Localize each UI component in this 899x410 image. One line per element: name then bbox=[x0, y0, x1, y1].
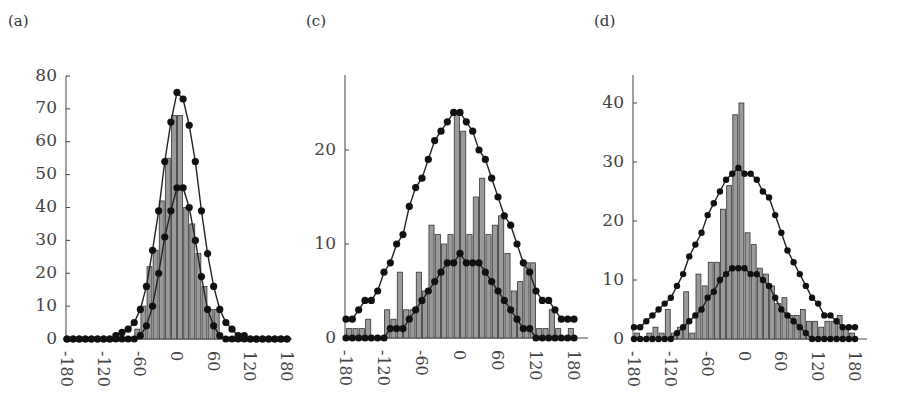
curve-marker bbox=[778, 230, 784, 236]
y-tick-label: 30 bbox=[602, 151, 624, 171]
curve-marker bbox=[797, 324, 803, 330]
histogram-bar bbox=[435, 235, 440, 338]
curve-line bbox=[346, 112, 574, 319]
histogram-bar bbox=[171, 115, 176, 339]
curve-marker bbox=[833, 336, 839, 342]
curve-marker bbox=[368, 297, 375, 304]
curve-marker bbox=[143, 322, 150, 329]
x-tick-label: -120 bbox=[94, 351, 113, 387]
curve-marker bbox=[637, 336, 643, 342]
curve-marker bbox=[406, 203, 413, 210]
histogram-bar bbox=[153, 250, 158, 339]
curve-marker bbox=[482, 269, 489, 276]
x-tick-label: -60 bbox=[412, 350, 431, 376]
curve-marker bbox=[815, 300, 821, 306]
histogram-bar bbox=[702, 286, 707, 339]
curve-marker bbox=[204, 250, 211, 257]
x-tick-label: 60 bbox=[771, 351, 790, 371]
histogram-bar bbox=[461, 131, 466, 338]
histogram-bar bbox=[782, 298, 787, 339]
curve-marker bbox=[766, 283, 772, 289]
histogram-bar bbox=[486, 235, 491, 338]
curve-marker bbox=[210, 322, 217, 329]
curve-marker bbox=[118, 329, 125, 336]
curve-marker bbox=[784, 247, 790, 253]
histogram-bar bbox=[727, 186, 732, 339]
curve-marker bbox=[821, 336, 827, 342]
histogram-bar bbox=[454, 112, 459, 338]
curve-marker bbox=[131, 319, 138, 326]
curve-marker bbox=[723, 271, 729, 277]
histogram-bar bbox=[696, 274, 701, 339]
curve-marker bbox=[809, 295, 815, 301]
x-tick-label: -180 bbox=[336, 350, 355, 386]
x-tick-label: -60 bbox=[130, 351, 149, 377]
curve-marker bbox=[198, 207, 205, 214]
curve-marker bbox=[425, 156, 432, 163]
curve-marker bbox=[399, 231, 406, 238]
curve-marker bbox=[412, 184, 419, 191]
curve-marker bbox=[349, 316, 356, 323]
curve-marker bbox=[387, 259, 394, 266]
curve-marker bbox=[173, 89, 180, 96]
y-tick-label: 10 bbox=[602, 269, 624, 289]
curve-marker bbox=[686, 253, 692, 259]
curve-marker bbox=[711, 200, 717, 206]
histogram-bar bbox=[751, 245, 756, 339]
curve-marker bbox=[125, 326, 132, 333]
curve-marker bbox=[149, 247, 156, 254]
curve-marker bbox=[418, 297, 425, 304]
curve-marker bbox=[355, 306, 362, 313]
histogram-bar bbox=[480, 178, 485, 338]
curve-marker bbox=[444, 118, 451, 125]
curve-marker bbox=[747, 271, 753, 277]
curve-marker bbox=[520, 259, 527, 266]
curve-marker bbox=[355, 334, 362, 341]
curve-marker bbox=[649, 312, 655, 318]
curve-marker bbox=[361, 297, 368, 304]
histogram-bar bbox=[442, 244, 447, 338]
curve-marker bbox=[418, 175, 425, 182]
curve-marker bbox=[180, 95, 187, 102]
curve-marker bbox=[680, 324, 686, 330]
curve-marker bbox=[475, 146, 482, 153]
curve-marker bbox=[772, 295, 778, 301]
curve-marker bbox=[545, 334, 552, 341]
panel-a: (a) 01020304050607080-180-120-6006012018… bbox=[0, 0, 300, 410]
curve-marker bbox=[399, 325, 406, 332]
curve-marker bbox=[686, 318, 692, 324]
curve-marker bbox=[393, 325, 400, 332]
x-tick-label: 120 bbox=[808, 351, 827, 382]
x-tick-label: 180 bbox=[564, 350, 583, 381]
curve-marker bbox=[456, 109, 463, 116]
curve-marker bbox=[406, 316, 413, 323]
curve-marker bbox=[674, 330, 680, 336]
curve-marker bbox=[368, 334, 375, 341]
curve-marker bbox=[735, 165, 741, 171]
curve-marker bbox=[482, 156, 489, 163]
y-tick-label: 20 bbox=[314, 139, 336, 159]
curve-marker bbox=[760, 277, 766, 283]
curve-marker bbox=[137, 332, 144, 339]
x-tick-label: 0 bbox=[167, 351, 186, 361]
curve-marker bbox=[784, 312, 790, 318]
x-tick-label: 180 bbox=[845, 351, 864, 382]
curve-marker bbox=[161, 233, 168, 240]
curve-marker bbox=[827, 336, 833, 342]
curve-marker bbox=[463, 259, 470, 266]
histogram-bar bbox=[708, 262, 713, 339]
y-tick-label: 40 bbox=[602, 92, 624, 112]
curve-marker bbox=[692, 241, 698, 247]
y-tick-label: 0 bbox=[613, 328, 624, 348]
y-tick-label: 60 bbox=[35, 130, 57, 150]
histogram-bar bbox=[739, 103, 744, 339]
curve-marker bbox=[412, 306, 419, 313]
panel-c: (c) 01020-180-120-60060120180 bbox=[300, 0, 600, 410]
curve-marker bbox=[469, 259, 476, 266]
curve-marker bbox=[797, 271, 803, 277]
curve-marker bbox=[222, 319, 229, 326]
curve-marker bbox=[704, 212, 710, 218]
curve-marker bbox=[167, 207, 174, 214]
x-tick-label: 60 bbox=[204, 351, 223, 371]
curve-marker bbox=[803, 283, 809, 289]
